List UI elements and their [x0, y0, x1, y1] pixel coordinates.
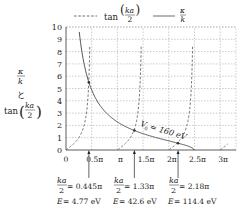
solution-2-E-symbol: E — [112, 197, 119, 206]
solution-3: ka 2 = 2.18π E = 114.4 eV — [167, 176, 217, 206]
y-tick-label: 9 — [57, 35, 62, 44]
ylabel-paren-left: ( — [19, 103, 25, 121]
y-ticks: 012345678910 — [52, 23, 62, 155]
solution-2-ka2: = 1.33π — [124, 182, 154, 191]
legend-tan-frac-num: ka — [125, 6, 134, 15]
y-tick-label: 0 — [57, 146, 62, 155]
y-tick-label: 6 — [57, 72, 62, 81]
tan-curve — [66, 46, 228, 150]
ylabel-paren-right: ) — [36, 103, 42, 121]
y-tick-label: 10 — [52, 23, 62, 32]
y-tick-label: 2 — [57, 121, 62, 130]
solution-3-frac-den: 2 — [171, 186, 176, 195]
y-axis-label: κ k と tan ( ka 2 ) — [4, 67, 42, 121]
x-ticks: 00.5ππ1.5π2π2.5π3π — [64, 155, 229, 164]
intersection-point — [177, 142, 180, 145]
solutions: ka 2 = 0.445π E = 4.77 eV ka 2 = 1.33π E… — [56, 176, 217, 206]
intersection-point — [88, 81, 91, 84]
y-tick-label: 5 — [57, 85, 62, 94]
ylabel-frac-den: 2 — [28, 111, 33, 120]
x-tick-label: 1.5π — [138, 155, 155, 164]
solution-1-E-symbol: E — [56, 197, 63, 206]
x-tick-label: 2.5π — [189, 155, 206, 164]
legend-tan-prefix: tan — [104, 12, 118, 22]
y-tick-label: 1 — [57, 134, 62, 143]
intersection-point — [133, 129, 136, 132]
solution-3-E-symbol: E — [167, 197, 174, 206]
ylabel-kappa: κ — [17, 67, 24, 76]
ylabel-k: k — [18, 77, 23, 86]
arrow-head-icon — [133, 150, 136, 154]
y-tick-label: 3 — [57, 109, 62, 118]
ylabel-tan: tan — [4, 106, 18, 116]
x-tick-label: π — [118, 155, 123, 164]
y-tick-label: 4 — [57, 97, 62, 106]
ylabel-frac-num: ka — [25, 101, 34, 110]
y-tick-label: 8 — [57, 48, 62, 57]
legend-tan-paren-right: ) — [136, 3, 141, 17]
arrow-head-icon — [87, 150, 90, 154]
solution-1-E: = 4.77 eV — [63, 197, 101, 206]
solution-3-E: = 114.4 eV — [174, 197, 217, 206]
legend-kappa-den: k — [181, 15, 186, 24]
solution-1-frac-num: ka — [57, 176, 67, 185]
legend-tan-frac-den: 2 — [128, 15, 133, 24]
x-tick-label: 3π — [218, 155, 228, 164]
solution-3-frac-num: ka — [169, 176, 179, 185]
legend: tan ( ka 2 ) κ k — [74, 3, 186, 24]
solution-1-ka2: = 0.445π — [67, 182, 102, 191]
solution-2: ka 2 = 1.33π E = 42.6 eV — [112, 176, 157, 206]
chart: tan ( ka 2 ) κ k κ k と tan ( ka 2 ) 0123… — [0, 0, 242, 210]
x-tick-label: 2π — [167, 155, 177, 164]
legend-kappa-num: κ — [179, 6, 185, 15]
curves — [66, 32, 228, 150]
y-tick-label: 7 — [57, 60, 62, 69]
solution-1: ka 2 = 0.445π E = 4.77 eV — [56, 176, 102, 206]
solution-1-frac-den: 2 — [59, 186, 64, 195]
solution-2-E: = 42.6 eV — [119, 197, 157, 206]
solution-2-frac-num: ka — [114, 176, 124, 185]
legend-tan-paren-left: ( — [120, 3, 125, 17]
v0-subscript: 0 — [144, 125, 149, 132]
ylabel-to: と — [17, 91, 25, 100]
solution-2-frac-den: 2 — [116, 186, 121, 195]
solution-3-ka2: = 2.18π — [179, 182, 209, 191]
x-tick-label: 0 — [64, 155, 69, 164]
arrow-head-icon — [177, 150, 180, 154]
